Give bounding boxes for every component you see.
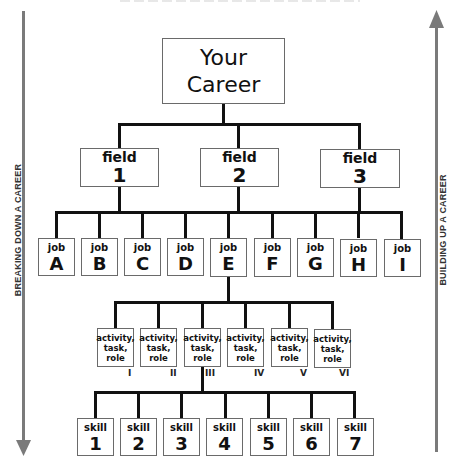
- connector: [288, 301, 291, 328]
- job-letter: G: [308, 254, 323, 273]
- skill-label: skill: [257, 422, 280, 434]
- skill-node-6: skill6: [293, 418, 330, 456]
- job-node-e: jobE: [210, 238, 247, 277]
- connector: [310, 391, 313, 418]
- arrow-up-icon: [429, 10, 444, 28]
- role-text: role: [193, 353, 212, 363]
- connector: [353, 391, 356, 418]
- skill-number: 3: [175, 434, 188, 453]
- connector: [358, 123, 361, 150]
- job-node-a: jobA: [38, 238, 75, 276]
- job-label: job: [134, 242, 151, 254]
- connector: [267, 391, 270, 418]
- field-number: 1: [113, 165, 127, 186]
- job-node-h: jobH: [340, 239, 377, 277]
- role-text: role: [280, 353, 299, 363]
- skill-number: 2: [132, 434, 145, 453]
- activity-numeral-6: VI: [339, 368, 349, 378]
- field-number: 2: [233, 165, 247, 186]
- connector: [271, 211, 274, 238]
- connector: [55, 211, 58, 238]
- connector: [114, 301, 117, 328]
- connector: [201, 301, 204, 328]
- task-text: task,: [278, 343, 302, 353]
- cut-off-heading: [120, 0, 360, 2]
- job-node-c: jobC: [124, 238, 161, 276]
- activity-node-5: activity,task,role: [271, 328, 308, 367]
- activity-numeral-5: V: [300, 368, 307, 378]
- field-node-2: field 2: [200, 148, 279, 187]
- job-node-d: jobD: [167, 238, 204, 276]
- job-letter: E: [222, 254, 234, 273]
- field-node-3: field 3: [320, 149, 400, 188]
- task-text: task,: [104, 343, 128, 353]
- job-letter: B: [93, 254, 107, 273]
- field-node-1: field 1: [80, 148, 159, 187]
- skill-number: 6: [305, 434, 318, 453]
- activity-text: activity,: [96, 333, 134, 343]
- job-label: job: [350, 243, 367, 255]
- skill-node-4: skill4: [206, 418, 243, 456]
- job-letter: I: [399, 255, 406, 274]
- field-number: 3: [353, 166, 367, 187]
- activity-text: activity,: [139, 333, 177, 343]
- connector: [314, 211, 317, 238]
- job-letter: C: [136, 254, 149, 273]
- job-node-b: jobB: [81, 238, 118, 276]
- connector: [137, 391, 140, 418]
- skill-label: skill: [300, 422, 323, 434]
- job-node-g: jobG: [297, 238, 334, 277]
- connector: [357, 211, 360, 238]
- root-line1: Your: [200, 44, 247, 71]
- connector: [94, 391, 97, 418]
- task-text: task,: [147, 343, 171, 353]
- job-label: job: [177, 242, 194, 254]
- skill-label: skill: [170, 422, 193, 434]
- arrow-down-icon: [16, 440, 31, 456]
- job-letter: A: [50, 254, 64, 273]
- role-text: role: [236, 353, 255, 363]
- connector: [141, 211, 144, 238]
- skill-number: 5: [262, 434, 275, 453]
- skill-node-3: skill3: [163, 418, 200, 456]
- left-side-label: BREAKING DOWN A CAREER: [13, 160, 23, 300]
- connector: [227, 211, 230, 238]
- connector: [118, 123, 121, 149]
- root-line2: Career: [187, 71, 261, 98]
- activity-node-3: activity,task,role: [184, 328, 221, 367]
- activity-node-2: activity,task,role: [140, 328, 177, 367]
- skill-node-5: skill5: [250, 418, 287, 456]
- connector: [118, 186, 121, 213]
- task-text: task,: [321, 344, 345, 354]
- connector: [222, 103, 225, 125]
- connector: [244, 301, 247, 328]
- connector: [227, 276, 230, 303]
- connector: [358, 187, 361, 213]
- activity-text: activity,: [270, 333, 308, 343]
- job-label: job: [394, 243, 411, 255]
- job-node-i: jobI: [384, 239, 421, 277]
- activity-numeral-2: II: [170, 368, 177, 378]
- activity-node-4: activity,task,role: [227, 328, 264, 367]
- connector: [237, 123, 240, 149]
- connector: [400, 211, 403, 239]
- connector: [98, 211, 101, 238]
- connector: [157, 301, 160, 328]
- skill-node-1: skill1: [77, 418, 114, 456]
- skill-number: 4: [218, 434, 231, 453]
- role-text: role: [149, 353, 168, 363]
- skill-label: skill: [84, 422, 107, 434]
- activity-text: activity,: [226, 333, 264, 343]
- connector: [237, 186, 240, 213]
- job-label: job: [48, 242, 65, 254]
- activity-node-6: activity,task,role: [314, 329, 351, 368]
- task-text: task,: [234, 343, 258, 353]
- connector: [180, 391, 183, 418]
- task-text: task,: [191, 343, 215, 353]
- root-node-your-career: Your Career: [162, 38, 285, 104]
- job-letter: D: [178, 254, 193, 273]
- job-label: job: [91, 242, 108, 254]
- activity-numeral-1: I: [128, 368, 131, 378]
- activity-numeral-3: III: [205, 368, 215, 378]
- activity-numeral-4: IV: [254, 368, 264, 378]
